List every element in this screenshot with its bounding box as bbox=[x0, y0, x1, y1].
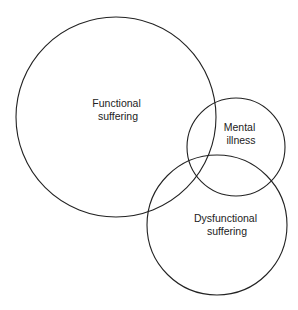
mental-label-line1: Mental bbox=[224, 121, 256, 133]
mental-illness-label: Mental illness bbox=[224, 121, 258, 146]
dysfunctional-suffering-label: Dysfunctional suffering bbox=[194, 212, 260, 237]
functional-label-line1: Functional bbox=[92, 97, 140, 109]
dysfunctional-label-line2: suffering bbox=[207, 225, 247, 237]
mental-illness-circle bbox=[187, 98, 285, 196]
functional-label-line2: suffering bbox=[98, 110, 138, 122]
venn-diagram: Functional suffering Mental illness Dysf… bbox=[0, 0, 298, 310]
dysfunctional-label-line1: Dysfunctional bbox=[194, 212, 257, 224]
functional-suffering-label: Functional suffering bbox=[92, 97, 143, 122]
mental-label-line2: illness bbox=[226, 134, 255, 146]
